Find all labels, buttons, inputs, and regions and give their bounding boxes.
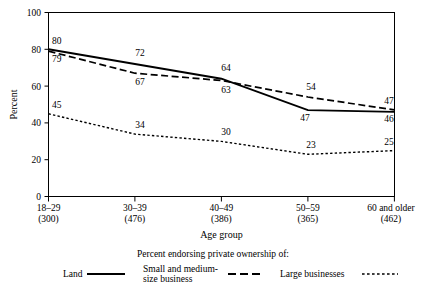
x-axis-title: Age group — [200, 229, 243, 240]
point-label-smb-2: 63 — [221, 85, 231, 95]
x-tick-count-2: (386) — [211, 214, 232, 225]
point-label-large-3: 23 — [306, 140, 316, 150]
x-tick-label-1: 30–39 — [123, 203, 147, 213]
x-tick-count-3: (365) — [298, 214, 319, 225]
x-tick-count-1: (476) — [125, 214, 146, 225]
legend-label-smb-line2: size business — [143, 274, 193, 284]
legend-item-land[interactable]: Land — [63, 269, 125, 279]
y-tick-label-100: 100 — [27, 8, 42, 18]
point-label-land-1: 72 — [135, 48, 145, 58]
point-label-smb-3: 54 — [306, 82, 316, 92]
legend: Land Small and medium- size business Lar… — [63, 264, 398, 284]
x-tick-label-0: 18–29 — [37, 203, 61, 213]
legend-item-small-medium-business[interactable]: Small and medium- size business — [143, 264, 262, 284]
point-labels-large-businesses: 45 34 30 23 25 — [52, 100, 394, 150]
plot-frame — [49, 13, 395, 197]
x-tick-label-2: 40–49 — [210, 203, 234, 213]
point-label-large-4: 25 — [384, 137, 394, 147]
x-tick-label-3: 50–59 — [296, 203, 320, 213]
figure-container: 100 80 60 40 20 0 Percent 18–29 (300) 30… — [0, 0, 421, 299]
series-line-small-medium-business — [49, 51, 395, 110]
point-label-land-4: 46 — [384, 114, 394, 124]
y-axis-ticks — [45, 13, 49, 197]
y-tick-label-40: 40 — [32, 118, 42, 128]
point-label-large-2: 30 — [221, 127, 231, 137]
legend-item-large-businesses[interactable]: Large businesses — [280, 269, 398, 279]
point-label-smb-0: 79 — [52, 54, 62, 64]
x-axis-tick-labels: 18–29 (300) 30–39 (476) 40–49 (386) 50–5… — [37, 203, 416, 225]
y-axis-title: Percent — [8, 89, 19, 119]
point-label-large-0: 45 — [52, 100, 62, 110]
x-tick-count-0: (300) — [38, 214, 59, 225]
y-tick-label-0: 0 — [36, 192, 41, 202]
legend-label-large-businesses: Large businesses — [280, 269, 345, 279]
legend-label-smb-line1: Small and medium- — [143, 264, 218, 274]
point-label-land-3: 47 — [300, 113, 310, 123]
line-chart: 100 80 60 40 20 0 Percent 18–29 (300) 30… — [0, 0, 421, 299]
legend-label-land: Land — [63, 269, 83, 279]
x-tick-count-4: (462) — [381, 214, 402, 225]
y-tick-label-60: 60 — [32, 82, 42, 92]
y-axis-tick-labels: 100 80 60 40 20 0 — [27, 8, 42, 202]
point-label-land-0: 80 — [52, 36, 62, 46]
legend-title: Percent endorsing private ownership of: — [137, 249, 289, 259]
point-label-large-1: 34 — [135, 120, 145, 130]
x-axis-ticks — [49, 197, 395, 202]
point-label-land-2: 64 — [221, 63, 231, 73]
point-label-smb-4: 47 — [384, 96, 394, 106]
y-tick-label-80: 80 — [32, 45, 42, 55]
y-tick-label-20: 20 — [32, 155, 42, 165]
point-label-smb-1: 67 — [135, 77, 145, 87]
x-tick-label-4: 60 and older — [367, 203, 415, 213]
